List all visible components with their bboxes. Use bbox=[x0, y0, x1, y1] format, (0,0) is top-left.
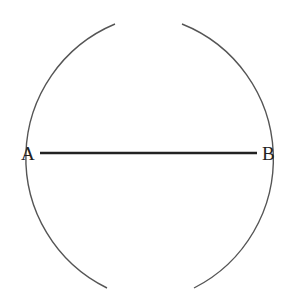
point-label-a: A bbox=[21, 143, 35, 164]
bisector-diagram: A B bbox=[0, 0, 288, 301]
arc-from-b bbox=[26, 24, 115, 288]
arc-from-a bbox=[182, 24, 273, 288]
point-label-b: B bbox=[262, 143, 275, 164]
